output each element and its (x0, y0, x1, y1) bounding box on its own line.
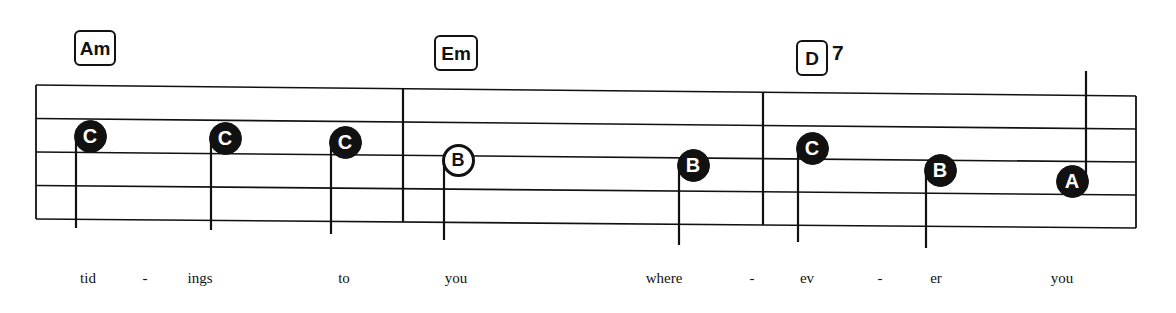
note-c-1[interactable]: C (74, 120, 107, 153)
note-b-2[interactable]: B (677, 149, 710, 182)
staff-line (36, 119, 1136, 130)
lyric-to: to (338, 270, 350, 287)
note-c-3-pitch-label: C (338, 132, 352, 152)
lyric-dash-1: - (143, 270, 148, 287)
note-b-1[interactable]: B (442, 144, 475, 177)
chord-em-label: Em (441, 44, 471, 63)
chord-em[interactable]: Em (434, 35, 478, 71)
note-a-1[interactable]: A (1056, 165, 1089, 198)
lyric-tid: tid (80, 270, 96, 287)
staff-line (36, 152, 1136, 162)
note-c-3[interactable]: C (329, 126, 362, 159)
music-sheet: AmEmD7CCCBBCBAtid-ingstoyouwhere-ev-eryo… (0, 0, 1176, 313)
note-c-2[interactable]: C (209, 122, 242, 155)
note-c-4[interactable]: C (796, 132, 829, 165)
note-b-2-pitch-label: B (686, 155, 700, 175)
lyric-you-1: you (445, 270, 468, 287)
note-b-1-pitch-label: B (452, 151, 465, 169)
lyric-dash-2: - (750, 270, 755, 287)
chord-d7-label: D (805, 49, 819, 68)
lyric-where: where (646, 270, 683, 287)
staff-line (36, 85, 1136, 96)
chord-am-label: Am (80, 39, 111, 58)
staff-lines-group (0, 0, 1176, 313)
note-c-1-pitch-label: C (83, 126, 97, 146)
chord-am[interactable]: Am (74, 30, 116, 66)
lyric-you-2: you (1051, 270, 1074, 287)
staff-line (36, 186, 1136, 196)
note-b-3-pitch-label: B (933, 160, 947, 180)
note-b-3[interactable]: B (924, 154, 957, 187)
staff-line (36, 219, 1136, 228)
lyric-er: er (930, 270, 942, 287)
note-c-4-pitch-label: C (805, 138, 819, 158)
chord-d7-extension: 7 (832, 42, 844, 63)
lyric-dash-3: - (878, 270, 883, 287)
chord-d7[interactable]: D (796, 40, 828, 76)
note-c-2-pitch-label: C (218, 128, 232, 148)
lyric-ev: ev (800, 270, 814, 287)
lyric-ings: ings (187, 270, 212, 287)
note-a-1-pitch-label: A (1065, 171, 1079, 191)
